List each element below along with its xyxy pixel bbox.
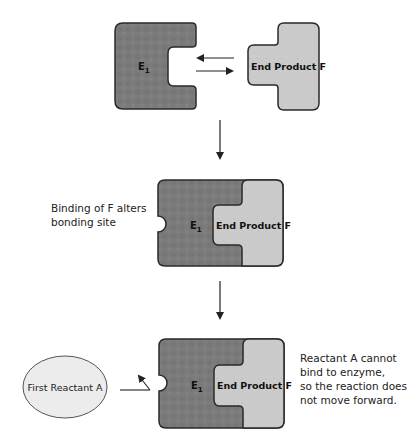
stage2-caption: Binding of F alters bonding site bbox=[51, 201, 147, 229]
stage1-product-label: End Product F bbox=[251, 61, 326, 72]
stage3-product-label: End Product F bbox=[217, 380, 292, 391]
stage2-caption-line1: Binding of F alters bbox=[51, 201, 147, 215]
stage3-caption-line: not move forward. bbox=[300, 393, 407, 407]
stage3-caption: Reactant A cannot bind to enzyme, so the… bbox=[300, 351, 407, 407]
stage2-product-label: End Product F bbox=[216, 220, 291, 231]
stage2-caption-line2: bonding site bbox=[51, 215, 147, 229]
reactant-label: First Reactant A bbox=[28, 382, 103, 393]
stage3-caption-line: Reactant A cannot bbox=[300, 351, 407, 365]
blocked-binding-arrow bbox=[120, 376, 150, 390]
stage3-caption-line: so the reaction does bbox=[300, 379, 407, 393]
stage1-enzyme-e1 bbox=[115, 23, 196, 109]
stage1-arrows bbox=[196, 58, 234, 71]
stage3-caption-line: bind to enzyme, bbox=[300, 365, 407, 379]
